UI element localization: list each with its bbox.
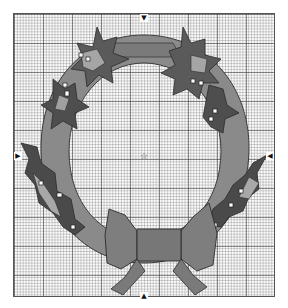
bow (105, 203, 217, 295)
right-center-marker: ◀ (266, 152, 274, 160)
up-arrow-icon: ▲ (140, 292, 148, 300)
down-arrow-icon: ▼ (140, 14, 148, 22)
left-arrow-icon: ◀ (266, 152, 274, 160)
top-center-marker: ▼ (140, 14, 148, 22)
bottom-center-marker: ▲ (140, 292, 148, 300)
center-star-icon: ☆ (140, 152, 148, 160)
right-arrow-icon: ▶ (14, 152, 22, 160)
left-center-marker: ▶ (14, 152, 22, 160)
